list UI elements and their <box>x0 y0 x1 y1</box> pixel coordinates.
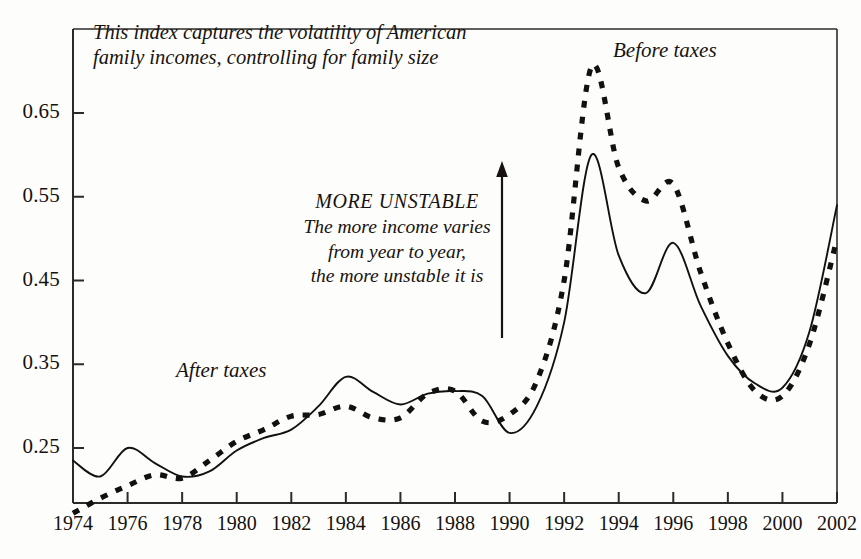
x-tick-marks <box>73 492 837 503</box>
chart-figure: 0.650.550.450.350.25 1974197619781980198… <box>0 0 861 559</box>
more-unstable-line-3: the more unstable it is <box>292 264 502 289</box>
y-axis-tick-label: 0.35 <box>2 350 60 375</box>
more-unstable-annotation: MORE UNSTABLE The more income varies fro… <box>292 190 502 289</box>
caption-annotation: This index captures the volatility of Am… <box>93 20 467 70</box>
caption-line-2: family incomes, controlling for family s… <box>93 45 467 70</box>
series-label-after-taxes: After taxes <box>176 358 266 383</box>
more-unstable-line-1: The more income varies <box>292 215 502 240</box>
caption-line-1: This index captures the volatility of Am… <box>93 20 467 45</box>
series-line-before-taxes <box>73 65 837 514</box>
x-axis-tick-label: 2002 <box>802 512 861 535</box>
more-unstable-heading: MORE UNSTABLE <box>292 190 502 213</box>
y-tick-marks <box>73 113 84 448</box>
y-axis-tick-label: 0.25 <box>2 434 60 459</box>
y-axis-tick-label: 0.65 <box>2 99 60 124</box>
y-axis-tick-label: 0.55 <box>2 183 60 208</box>
series-label-before-taxes: Before taxes <box>613 38 717 63</box>
more-unstable-line-2: from year to year, <box>292 240 502 265</box>
y-axis-tick-label: 0.45 <box>2 267 60 292</box>
data-series-layer <box>73 65 837 514</box>
